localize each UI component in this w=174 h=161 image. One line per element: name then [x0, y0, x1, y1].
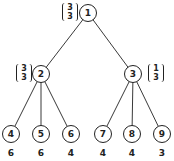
leaf-label: 7 — [95, 126, 111, 142]
vector-top: 3 — [17, 64, 31, 73]
leaf-value: 4 — [97, 148, 109, 158]
leaf-label: 8 — [124, 126, 140, 142]
leaf-value: 4 — [126, 148, 138, 158]
leaf-value: 3 — [156, 148, 168, 158]
vector-top: 1 — [149, 64, 163, 73]
vector-bottom: 3 — [17, 73, 31, 82]
vector-top: 3 — [63, 3, 77, 12]
leaf-label: 6 — [63, 126, 79, 142]
leaf-label: 9 — [154, 126, 170, 142]
leaf-value: 6 — [5, 148, 17, 158]
root-vector: 3 3 — [62, 3, 78, 21]
node3-vector: 1 3 — [148, 64, 164, 82]
leaf-value: 4 — [65, 148, 77, 158]
vector-bottom: 3 — [63, 12, 77, 21]
vector-bottom: 3 — [149, 73, 163, 82]
node-label: 3 — [125, 66, 141, 82]
leaf-label: 5 — [33, 126, 49, 142]
leaf-label: 4 — [3, 126, 19, 142]
node-label: 2 — [33, 66, 49, 82]
leaf-value: 6 — [35, 148, 47, 158]
node-root-label: 1 — [80, 5, 96, 21]
node2-vector: 3 3 — [16, 64, 32, 82]
